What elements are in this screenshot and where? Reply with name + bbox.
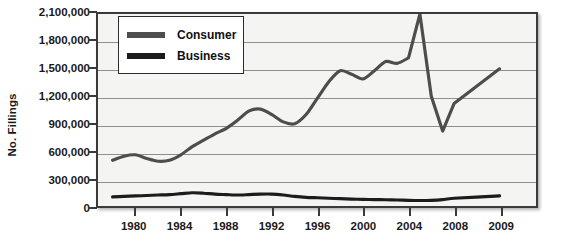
x-axis-tick-labels: 198019841988199219962000200420082009 — [96, 220, 538, 242]
x-tick-mark — [272, 208, 274, 216]
x-tick-mark — [501, 208, 503, 216]
y-tick-label: 1,800,000 — [39, 34, 90, 46]
x-tick-label: 1980 — [121, 220, 147, 232]
y-axis-title-text: No. Fillings — [6, 93, 18, 156]
x-tick-mark — [409, 208, 411, 216]
legend-label-consumer: Consumer — [177, 28, 236, 42]
x-tick-label: 1992 — [259, 220, 285, 232]
x-tick-label: 2004 — [397, 220, 423, 232]
x-tick-label: 2008 — [443, 220, 469, 232]
x-tick-mark — [134, 208, 136, 216]
x-tick-label: 1988 — [213, 220, 239, 232]
legend-item-business: Business — [127, 45, 235, 66]
legend-swatch-consumer — [127, 32, 165, 38]
x-tick-mark — [363, 208, 365, 216]
legend-label-business: Business — [177, 49, 230, 63]
legend-swatch-business — [127, 53, 165, 59]
y-tick-label: 2,100,000 — [39, 6, 90, 18]
y-tick-label: 1,200,000 — [39, 90, 90, 102]
x-tick-label: 2000 — [351, 220, 377, 232]
x-tick-label: 1984 — [167, 220, 193, 232]
y-tick-label: 1,500,000 — [39, 62, 90, 74]
y-tick-label: 600,000 — [48, 146, 90, 158]
x-tick-mark — [455, 208, 457, 216]
legend-item-consumer: Consumer — [127, 24, 235, 45]
x-tick-label: 2009 — [488, 220, 514, 232]
x-tick-mark — [318, 208, 320, 216]
chart-legend: Consumer Business — [118, 16, 244, 74]
x-tick-mark — [226, 208, 228, 216]
x-tick-mark — [180, 208, 182, 216]
series-line-business — [113, 193, 500, 201]
y-axis-tick-labels: 0300,000600,000900,0001,200,0001,500,000… — [18, 0, 94, 247]
line-chart: No. Fillings 0300,000600,000900,0001,200… — [0, 0, 565, 247]
y-tick-label: 300,000 — [48, 174, 90, 186]
y-tick-label: 900,000 — [48, 118, 90, 130]
x-axis-tick-marks — [96, 208, 538, 217]
x-tick-label: 1996 — [305, 220, 331, 232]
